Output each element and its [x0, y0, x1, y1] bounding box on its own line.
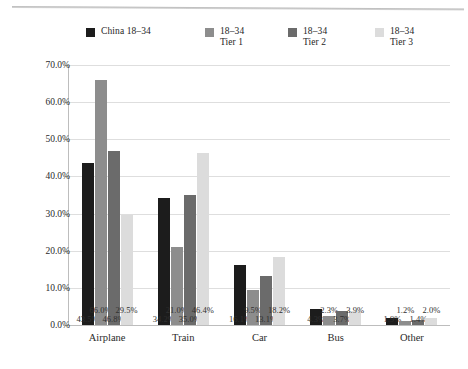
y-tick-label: 10.0%: [0, 283, 70, 293]
bar-fill: [82, 163, 94, 325]
legend-swatch-icon: [288, 28, 297, 37]
bar: 2.0%: [425, 318, 437, 325]
x-axis-labels: AirplaneTrainCarBusOther: [69, 332, 450, 352]
bar-groups: 43.5%66.0%46.8%29.5%34.2%21.0%35.0%46.4%…: [69, 65, 450, 325]
chart-plot-area: 70.0%60.0%50.0%40.0%30.0%20.0%10.0%0.0% …: [0, 60, 468, 369]
bar: 43.5%: [82, 163, 94, 325]
x-axis-label: Train: [145, 332, 221, 352]
bar-fill: [197, 153, 209, 325]
legend-item-china-18-34: China 18–34: [86, 26, 151, 37]
legend-item-label: 18–34 Tier 1: [220, 26, 244, 47]
bar-group: 34.2%21.0%35.0%46.4%: [145, 65, 221, 325]
y-tick-label: 40.0%: [0, 171, 70, 181]
bar-fill: [95, 80, 107, 325]
top-rule: [12, 6, 464, 11]
bar: 46.4%: [197, 153, 209, 325]
bar: 1.9%: [386, 318, 398, 325]
x-axis-label: Car: [221, 332, 297, 352]
gridline: [68, 325, 450, 326]
bar-group: 4.3%2.3%3.7%3.9%: [298, 65, 374, 325]
legend-swatch-icon: [375, 28, 384, 37]
legend-item-label: 18–34 Tier 2: [303, 26, 327, 47]
bar: 1.4%: [412, 320, 424, 325]
bar: 46.8%: [108, 151, 120, 325]
bar-group: 16.1%9.5%13.1%18.2%: [221, 65, 297, 325]
y-tick-label: 60.0%: [0, 97, 70, 107]
bar: 66.0%: [95, 80, 107, 325]
chart-legend: China 18–34 18–34 Tier 1 18–34 Tier 2 18…: [0, 24, 468, 58]
legend-item-label: China 18–34: [101, 26, 151, 37]
bar-value-label: 18.2%: [268, 306, 290, 315]
bar: 29.5%: [121, 215, 133, 325]
bar: 16.1%: [234, 265, 246, 325]
legend-swatch-icon: [86, 28, 95, 37]
bar-group: 1.9%1.2%1.4%2.0%: [374, 65, 450, 325]
legend-item-tier-1: 18–34 Tier 1: [205, 26, 244, 47]
bar-value-label: 46.4%: [192, 306, 214, 315]
bar: 3.9%: [349, 311, 361, 325]
bar-value-label: 29.5%: [116, 306, 138, 315]
y-tick-label: 30.0%: [0, 209, 70, 219]
x-axis-label: Bus: [298, 332, 374, 352]
legend-item-label: 18–34 Tier 3: [390, 26, 414, 47]
legend-item-tier-2: 18–34 Tier 2: [288, 26, 327, 47]
bar-value-label: 3.9%: [346, 306, 364, 315]
bar-fill: [425, 318, 437, 325]
bar-fill: [108, 151, 120, 325]
y-tick-label: 0.0%: [0, 320, 70, 330]
x-axis-label: Other: [374, 332, 450, 352]
y-tick-label: 20.0%: [0, 246, 70, 256]
bar: 18.2%: [273, 257, 285, 325]
bar-group: 43.5%66.0%46.8%29.5%: [69, 65, 145, 325]
y-tick-label: 70.0%: [0, 60, 70, 70]
y-tick-label: 50.0%: [0, 134, 70, 144]
x-axis-label: Airplane: [69, 332, 145, 352]
bar-value-label: 2.0%: [423, 306, 441, 315]
bar: 13.1%: [260, 276, 272, 325]
legend-item-tier-3: 18–34 Tier 3: [375, 26, 414, 47]
legend-swatch-icon: [205, 28, 214, 37]
